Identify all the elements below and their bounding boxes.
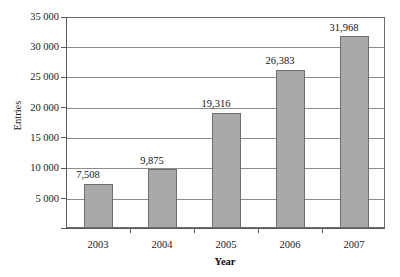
y-axis-line <box>66 17 67 228</box>
y-tick-20000 <box>61 107 66 108</box>
bar-value-2007: 31,968 <box>314 23 374 34</box>
y-tick-label-10000: 10 000 <box>30 163 59 174</box>
gridline-25000 <box>67 77 384 78</box>
y-tick-15000 <box>61 137 66 138</box>
x-tick-label-2007: 2007 <box>324 240 384 251</box>
bar-2007 <box>340 36 369 228</box>
bar-value-2004: 9,875 <box>122 156 182 167</box>
bar-value-2003: 7,508 <box>58 170 118 181</box>
x-tick-label-2006: 2006 <box>260 240 320 251</box>
y-tick-30000 <box>61 47 66 48</box>
x-tick-label-2005: 2005 <box>196 240 256 251</box>
bar-value-2005: 19,316 <box>186 99 246 110</box>
y-tick-25000 <box>61 77 66 78</box>
y-tick-label-30000: 30 000 <box>30 42 59 53</box>
bar-2005 <box>212 113 241 228</box>
bar-value-2006: 26,383 <box>250 56 310 67</box>
x-tick-1 <box>130 228 131 233</box>
x-tick-2 <box>194 228 195 233</box>
y-tick-label-20000: 20 000 <box>30 103 59 114</box>
y-tick-10000 <box>61 168 66 169</box>
y-tick-label-35000: 35 000 <box>30 12 59 23</box>
bar-2003 <box>84 184 113 228</box>
y-tick-label-5000: 5 000 <box>35 194 59 205</box>
x-tick-label-2004: 2004 <box>132 240 192 251</box>
x-tick-4 <box>322 228 323 233</box>
y-tick-label-15000: 15 000 <box>30 133 59 144</box>
y-tick-5000 <box>61 198 66 199</box>
bar-2004 <box>148 169 177 228</box>
gridline-30000 <box>67 47 384 48</box>
plot-area <box>66 17 385 228</box>
y-axis-title: Entries <box>12 86 23 146</box>
y-tick-0 <box>61 228 66 229</box>
chart-image: 35 000 30 000 25 000 20 000 15 000 10 00… <box>0 0 400 277</box>
y-tick-35000 <box>61 17 66 18</box>
x-tick-3 <box>258 228 259 233</box>
x-axis-line <box>66 228 385 229</box>
bar-2006 <box>276 70 305 228</box>
x-axis-title: Year <box>195 256 255 267</box>
x-tick-label-2003: 2003 <box>68 240 128 251</box>
y-tick-label-25000: 25 000 <box>30 72 59 83</box>
y-axis-tick-labels: 35 000 30 000 25 000 20 000 15 000 10 00… <box>0 0 59 277</box>
